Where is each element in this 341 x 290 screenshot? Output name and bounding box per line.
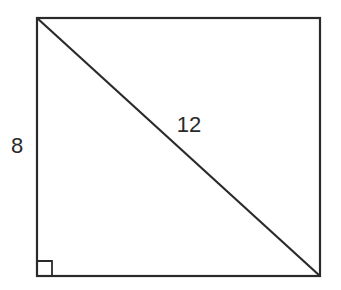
diagonal-length-label: 12 <box>177 112 201 137</box>
side-length-label: 8 <box>11 133 23 158</box>
right-angle-marker <box>37 261 52 276</box>
diagonal-line <box>37 18 320 276</box>
rectangle-diagram: 8 12 <box>0 0 341 290</box>
